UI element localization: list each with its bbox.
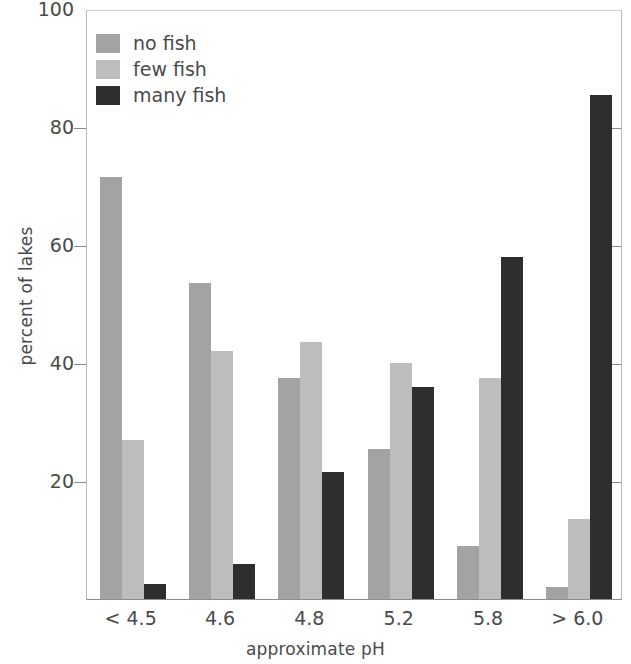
bar-no-fish-4 bbox=[457, 546, 479, 599]
bar-many-fish-4 bbox=[501, 257, 523, 599]
y-axis-tick-label: 100 bbox=[24, 0, 74, 19]
y-axis-tick-mark bbox=[74, 482, 86, 483]
y-axis-tick-label: 60 bbox=[24, 236, 74, 255]
bar-no-fish-1 bbox=[189, 283, 211, 599]
bar-few-fish-5 bbox=[568, 519, 590, 599]
bar-chart-figure: percent of lakes 20406080100 no fishfew … bbox=[0, 0, 631, 664]
y-axis-tick-mark bbox=[74, 246, 86, 247]
legend-item: many fish bbox=[96, 82, 226, 108]
bar-group bbox=[457, 11, 523, 599]
bar-group bbox=[278, 11, 344, 599]
bar-many-fish-5 bbox=[590, 95, 612, 599]
bar-few-fish-1 bbox=[211, 351, 233, 599]
y-axis-tick-label: 20 bbox=[24, 472, 74, 491]
legend-item: no fish bbox=[96, 30, 226, 56]
bar-many-fish-3 bbox=[412, 387, 434, 599]
bar-no-fish-2 bbox=[278, 378, 300, 599]
legend-label: no fish bbox=[133, 34, 197, 53]
bar-group bbox=[368, 11, 434, 599]
bar-many-fish-1 bbox=[233, 564, 255, 599]
bar-few-fish-2 bbox=[300, 342, 322, 599]
y-axis-tick-label: 80 bbox=[24, 118, 74, 137]
legend: no fishfew fishmany fish bbox=[96, 30, 226, 108]
bar-few-fish-3 bbox=[390, 363, 412, 599]
bar-few-fish-4 bbox=[479, 378, 501, 599]
x-axis-tick-label: > 6.0 bbox=[522, 607, 631, 629]
bar-no-fish-5 bbox=[546, 587, 568, 599]
legend-item: few fish bbox=[96, 56, 226, 82]
bar-no-fish-3 bbox=[368, 449, 390, 599]
legend-swatch-icon bbox=[96, 60, 120, 79]
legend-label: many fish bbox=[133, 86, 226, 105]
y-axis-tick-mark bbox=[74, 364, 86, 365]
x-axis-title: approximate pH bbox=[0, 639, 631, 659]
y-axis-tick-label: 40 bbox=[24, 354, 74, 373]
legend-label: few fish bbox=[133, 60, 207, 79]
legend-swatch-icon bbox=[96, 34, 120, 53]
bar-no-fish-0 bbox=[100, 177, 122, 599]
bar-few-fish-0 bbox=[122, 440, 144, 599]
y-axis-tick-mark bbox=[74, 128, 86, 129]
bar-many-fish-0 bbox=[144, 584, 166, 599]
bar-group bbox=[546, 11, 612, 599]
legend-swatch-icon bbox=[96, 86, 120, 105]
bar-many-fish-2 bbox=[322, 472, 344, 599]
